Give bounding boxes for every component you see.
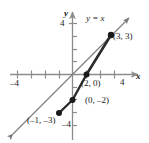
point-2-0 [84, 72, 90, 78]
x-axis-label: x [136, 72, 141, 81]
y-tick-label-4: 4 [60, 19, 65, 28]
coordinate-plane-figure: y x –4 4 4 –4 y = x (3, 3) (2, 0) (0, –2… [0, 0, 149, 143]
point-label-0-neg2: (0, –2) [85, 96, 109, 105]
point-label-3-3: (3, 3) [113, 32, 133, 41]
line-equation-label: y = x [86, 14, 105, 23]
point-label-neg1-neg3: (–1, –3) [27, 116, 56, 125]
plot-canvas [0, 0, 149, 143]
y-axis-label: y [64, 9, 68, 18]
point-neg1-neg3 [56, 110, 62, 116]
x-axis [10, 71, 138, 79]
x-tick-label-4: 4 [120, 78, 125, 87]
point-label-2-0: (2, 0) [81, 79, 101, 88]
x-tick-label-neg4: –4 [10, 79, 19, 88]
point-0-neg2 [70, 97, 76, 103]
y-tick-label-neg4: –4 [62, 120, 71, 129]
